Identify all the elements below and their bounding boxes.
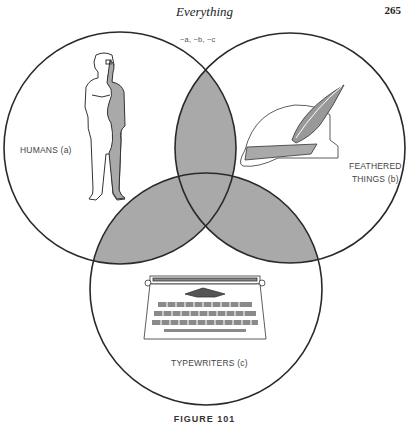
label-set-c-typewriters: TYPEWRITERS (c) [171, 358, 248, 368]
feathered-hat-icon [240, 85, 344, 166]
shaded-intersections [90, 33, 405, 405]
label-set-b-feathered-things: FEATHERED THINGS (b) [349, 160, 402, 186]
label-set-b-line2: THINGS (b) [349, 173, 402, 186]
typewriter-icon [144, 276, 266, 339]
human-figure-icon [85, 53, 125, 200]
label-outside-all-sets: ~a, ~b, ~c [180, 35, 216, 44]
label-set-a-humans: HUMANS (a) [20, 145, 72, 155]
label-set-b-line1: FEATHERED [349, 160, 402, 173]
figure-caption: FIGURE 101 [0, 414, 409, 424]
